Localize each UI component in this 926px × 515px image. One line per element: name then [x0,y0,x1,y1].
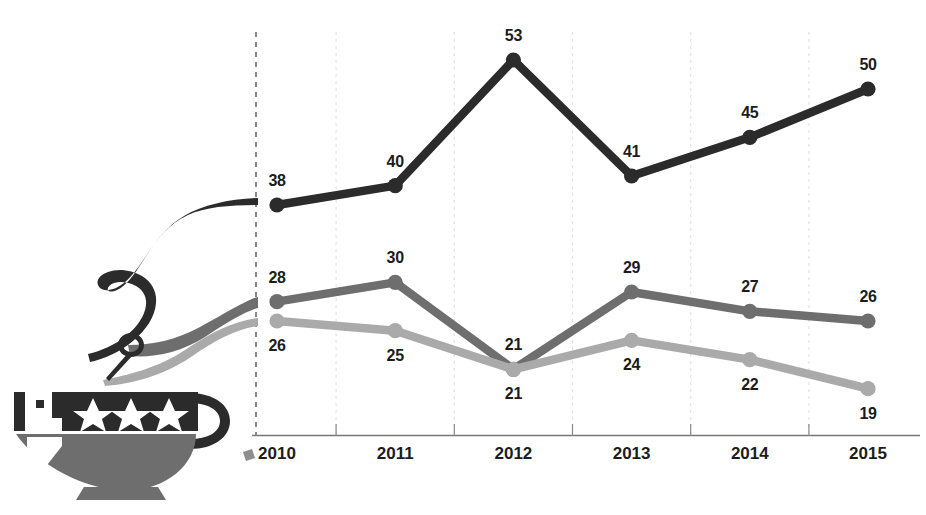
data-point[interactable] [388,178,403,193]
data-label: 50 [859,56,877,73]
data-point[interactable] [624,168,639,183]
data-point[interactable] [624,284,639,299]
data-label: 27 [741,278,759,295]
data-label: 25 [387,347,405,364]
line-chart: 384053414550283021292726262521242219 201… [0,0,926,515]
data-label: 30 [387,249,405,266]
data-point[interactable] [860,313,875,328]
data-point[interactable] [624,333,639,348]
data-point[interactable] [742,304,757,319]
data-label: 53 [505,27,523,44]
x-axis-label: 2014 [731,444,769,463]
data-label: 24 [623,356,641,373]
data-point[interactable] [269,197,284,212]
x-axis-label: 2012 [494,444,532,463]
x-axis-label: 2013 [613,444,651,463]
data-point[interactable] [506,362,521,377]
data-label: 28 [268,269,286,286]
data-point[interactable] [388,275,403,290]
data-point[interactable] [742,130,757,145]
data-label: 38 [268,172,286,189]
data-label: 21 [505,385,523,402]
chart-canvas: 384053414550283021292726262521242219 201… [0,0,926,515]
x-axis-label: 2010 [258,444,296,463]
data-label: 22 [741,376,759,393]
data-label: 45 [741,104,759,121]
data-label: 41 [623,143,641,160]
data-label: 19 [859,405,877,422]
data-point[interactable] [269,294,284,309]
x-axis-label: 2015 [849,444,887,463]
data-label: 26 [859,288,877,305]
data-label: 26 [268,337,286,354]
data-point[interactable] [860,381,875,396]
data-point[interactable] [742,352,757,367]
x-axis-label: 2011 [377,444,414,463]
data-point[interactable] [388,323,403,338]
data-label: 21 [505,336,523,353]
data-label: 40 [387,153,405,170]
data-label: 29 [623,259,641,276]
cup-foot [76,487,166,500]
data-point[interactable] [860,81,875,96]
data-point[interactable] [269,313,284,328]
data-point[interactable] [506,52,521,67]
